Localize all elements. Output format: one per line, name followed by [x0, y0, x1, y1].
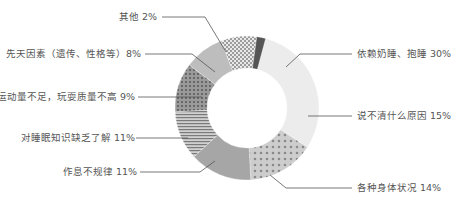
label-unknown: 说不清什么原因 15% [357, 110, 451, 122]
label-exercise: 运动量不足，玩耍质量不高 9% [0, 91, 135, 103]
label-depend: 依赖奶睡、抱睡 30% [357, 48, 451, 60]
label-schedule: 作息不规律 11% [63, 166, 137, 178]
label-knowledge: 对睡眠知识缺乏了解 11% [21, 132, 135, 144]
label-other: 其他 2% [119, 11, 157, 23]
label-health: 各种身体状况 14% [357, 182, 441, 194]
label-innate: 先天因素（遗传、性格等）8% [6, 48, 141, 60]
slice-0 [257, 38, 319, 147]
leader-health [270, 175, 352, 188]
